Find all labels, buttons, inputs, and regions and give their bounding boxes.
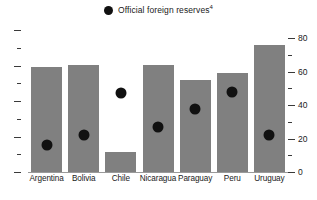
legend-item-official-foreign-reserves: Official foreign reserves4: [104, 4, 213, 15]
left-axis: [0, 30, 28, 172]
bar-chile: [105, 152, 136, 172]
left-axis-tick-minor: [17, 83, 21, 84]
right-axis-label-60: 60: [298, 67, 307, 77]
left-axis-tick-major: [14, 101, 21, 102]
reserves-marker-peru: [227, 86, 238, 97]
left-axis-tick-major: [14, 172, 21, 173]
left-axis-tick-major: [14, 66, 21, 67]
plot-area: [28, 30, 288, 172]
right-axis-tick-major: [288, 38, 295, 39]
reserves-marker-uruguay: [264, 130, 275, 141]
right-axis-label-40: 40: [298, 100, 307, 110]
right-axis: 020406080: [288, 30, 317, 175]
chart-container: Official foreign reserves4 020406080 Arg…: [0, 0, 317, 200]
bar-bolivia: [68, 65, 99, 172]
left-axis-tick-minor: [17, 119, 21, 120]
left-axis-tick-major: [14, 137, 21, 138]
right-axis-tick-minor: [288, 122, 292, 123]
right-axis-tick-major: [288, 72, 295, 73]
filled-circle-marker-icon: [104, 6, 113, 15]
bar-nicaragua: [143, 65, 174, 172]
reserves-marker-paraguay: [190, 103, 201, 114]
legend-label-text: Official foreign reserves4: [118, 4, 213, 15]
bar-argentina: [31, 67, 62, 172]
right-axis-tick-minor: [288, 88, 292, 89]
reserves-marker-chile: [115, 88, 126, 99]
reserves-marker-bolivia: [78, 130, 89, 141]
axis-baseline: [28, 172, 290, 173]
category-label-peru: Peru: [224, 174, 241, 183]
bar-paraguay: [180, 80, 211, 172]
reserves-marker-argentina: [41, 140, 52, 151]
legend-label-main: Official foreign reserves: [118, 5, 210, 15]
category-label-paraguay: Paraguay: [178, 174, 212, 183]
category-label-argentina: Argentina: [29, 174, 63, 183]
category-label-uruguay: Uruguay: [254, 174, 284, 183]
reserves-marker-nicaragua: [153, 121, 164, 132]
left-axis-tick-minor: [17, 154, 21, 155]
right-axis-label-0: 0: [298, 167, 303, 177]
right-axis-tick-minor: [288, 55, 292, 56]
chart-legend: Official foreign reserves4: [0, 4, 317, 15]
right-axis-label-20: 20: [298, 134, 307, 144]
right-axis-tick-major: [288, 105, 295, 106]
bar-uruguay: [254, 45, 285, 172]
category-label-nicaragua: Nicaragua: [140, 174, 176, 183]
right-axis-tick-major: [288, 172, 295, 173]
category-axis-labels: ArgentinaBoliviaChileNicaraguaParaguayPe…: [28, 174, 288, 190]
left-axis-tick-minor: [17, 48, 21, 49]
right-axis-tick-minor: [288, 155, 292, 156]
category-label-bolivia: Bolivia: [72, 174, 95, 183]
legend-footnote-marker: 4: [210, 4, 213, 10]
left-axis-tick-major: [14, 30, 21, 31]
right-axis-tick-major: [288, 139, 295, 140]
category-label-chile: Chile: [112, 174, 130, 183]
right-axis-label-80: 80: [298, 33, 307, 43]
